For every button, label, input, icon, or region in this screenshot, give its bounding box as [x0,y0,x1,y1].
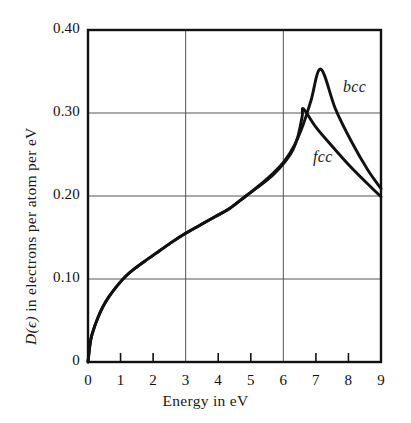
x-tick-label: 9 [361,372,401,389]
curve-fcc [88,108,381,362]
y-tick-label: 0.20 [53,186,80,203]
y-axis-symbol: D(ϵ) [22,316,39,345]
gridline-group [88,30,381,362]
y-tick-label: 0 [72,352,80,369]
y-tick-label: 0.10 [53,269,80,286]
y-axis-title-rest: in electrons per atom per eV [22,127,39,316]
y-tick-label: 0.30 [53,103,80,120]
x-axis-title: Energy in eV [0,392,411,410]
y-tick-label: 0.40 [53,20,80,37]
plot-canvas [0,0,411,423]
y-axis-title: D(ϵ) in electrons per atom per eV [22,127,40,345]
curve-label-fcc: fcc [313,148,333,166]
curve-label-bcc: bcc [343,78,366,96]
tick-mark-group [121,353,349,362]
density-of-states-figure: 00.100.200.300.40 0123456789 D(ϵ) in ele… [0,0,411,423]
